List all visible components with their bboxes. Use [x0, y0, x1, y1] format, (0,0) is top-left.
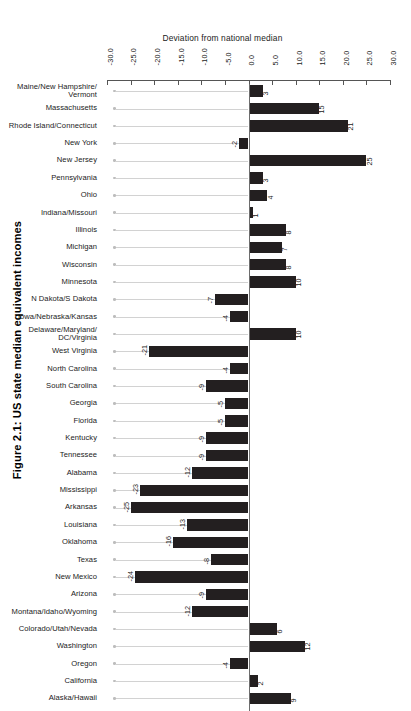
- bar-value-label: -12: [182, 467, 191, 477]
- bar[interactable]: [206, 450, 248, 461]
- bar[interactable]: [249, 641, 306, 652]
- category-label: Georgia: [0, 399, 97, 407]
- bar[interactable]: [131, 502, 249, 513]
- bar-row[interactable]: Mississippi-23: [34, 482, 411, 499]
- bar-row[interactable]: Ohio4: [34, 187, 411, 204]
- bar-value-label: -5: [215, 419, 224, 425]
- leader-line: [116, 612, 192, 613]
- bar[interactable]: [173, 537, 248, 548]
- category-label: Maine/New Hampshire/Vermont: [0, 83, 97, 99]
- leader-line: [116, 421, 225, 422]
- bar[interactable]: [230, 363, 249, 374]
- bar[interactable]: [249, 328, 296, 339]
- bar[interactable]: [206, 432, 248, 443]
- bar[interactable]: [206, 589, 248, 600]
- bar-value-label: -4: [220, 662, 229, 668]
- bar-row[interactable]: Maine/New Hampshire/Vermont3: [34, 83, 411, 100]
- category-label: Tennessee: [0, 451, 97, 459]
- bar-row[interactable]: West Virginia-21: [34, 343, 411, 360]
- bar-row[interactable]: Louisiana-13: [34, 516, 411, 533]
- bar-row[interactable]: Colorado/Utah/Nevada6: [34, 620, 411, 637]
- bar-row[interactable]: Rhode Island/Connecticut21: [34, 117, 411, 134]
- bar-row[interactable]: Arizona-9: [34, 586, 411, 603]
- bar-value-label: -9: [197, 436, 206, 442]
- bar-row[interactable]: Kentucky-9: [34, 430, 411, 447]
- bar-row[interactable]: New Mexico-24: [34, 568, 411, 585]
- bar-row[interactable]: Tennessee-9: [34, 447, 411, 464]
- category-label: Iowa/Nebraska/Kansas: [0, 313, 97, 321]
- bar-row[interactable]: Iowa/Nebraska/Kansas-4: [34, 308, 411, 325]
- bar-row[interactable]: Michigan7: [34, 239, 411, 256]
- bar[interactable]: [192, 606, 249, 617]
- bar-value-label: -25: [121, 502, 130, 512]
- bar[interactable]: [249, 276, 296, 287]
- category-label: Pennsylvania: [0, 174, 97, 182]
- leader-line: [116, 438, 206, 439]
- bar-value-label: 3: [260, 92, 269, 96]
- bar[interactable]: [187, 519, 248, 530]
- bar-row[interactable]: Arkansas-25: [34, 499, 411, 516]
- bar-row[interactable]: Indiana/Missouri1: [34, 204, 411, 221]
- bar[interactable]: [249, 693, 291, 704]
- bar-row[interactable]: Minnesota10: [34, 273, 411, 290]
- category-label: Alabama: [0, 469, 97, 477]
- bar-row[interactable]: New Jersey25: [34, 152, 411, 169]
- bar[interactable]: [249, 623, 277, 634]
- bar-row[interactable]: Montana/Idaho/Wyoming-12: [34, 603, 411, 620]
- category-label: New Mexico: [0, 573, 97, 581]
- leader-line: [116, 664, 229, 665]
- leader-line: [116, 299, 215, 300]
- bar-row[interactable]: Florida-5: [34, 412, 411, 429]
- bar[interactable]: [239, 138, 248, 149]
- bar[interactable]: [225, 415, 249, 426]
- bar[interactable]: [249, 120, 348, 131]
- bar-value-label: -4: [220, 367, 229, 373]
- bar-row[interactable]: South Carolina-9: [34, 377, 411, 394]
- bar-row[interactable]: Alabama-12: [34, 464, 411, 481]
- bar[interactable]: [249, 259, 287, 270]
- category-label: Michigan: [0, 243, 97, 251]
- leader-line: [116, 161, 248, 162]
- bar-value-label: 6: [275, 630, 284, 634]
- bar[interactable]: [149, 346, 248, 357]
- leader-line: [116, 230, 248, 231]
- category-label: Arkansas: [0, 503, 97, 511]
- bar-row[interactable]: Massachusetts15: [34, 100, 411, 117]
- bar-row[interactable]: N Dakota/S Dakota-7: [34, 291, 411, 308]
- bar-row[interactable]: Pennsylvania3: [34, 169, 411, 186]
- bar[interactable]: [249, 155, 367, 166]
- bar[interactable]: [192, 467, 249, 478]
- bar[interactable]: [206, 380, 248, 391]
- bar[interactable]: [225, 398, 249, 409]
- bar-value-label: -5: [215, 402, 224, 408]
- bar-value-label: -9: [197, 384, 206, 390]
- bar[interactable]: [249, 103, 320, 114]
- bar-row[interactable]: Wisconsin8: [34, 256, 411, 273]
- bar-row[interactable]: Oregon-4: [34, 655, 411, 672]
- leader-line: [116, 456, 206, 457]
- bar[interactable]: [249, 242, 282, 253]
- bar[interactable]: [215, 294, 248, 305]
- bar[interactable]: [211, 554, 249, 565]
- category-label: Louisiana: [0, 521, 97, 529]
- category-label: Oklahoma: [0, 538, 97, 546]
- bar-row[interactable]: California2: [34, 672, 411, 689]
- bar-row[interactable]: North Carolina-4: [34, 360, 411, 377]
- bar-row[interactable]: Alaska/Hawaii9: [34, 690, 411, 707]
- bar[interactable]: [230, 311, 249, 322]
- bar-row[interactable]: Georgia-5: [34, 395, 411, 412]
- bar-row[interactable]: New York-2: [34, 135, 411, 152]
- bar-row[interactable]: Texas-8: [34, 551, 411, 568]
- bar-row[interactable]: Oklahoma-16: [34, 534, 411, 551]
- bar[interactable]: [140, 485, 248, 496]
- bar[interactable]: [135, 571, 248, 582]
- bar[interactable]: [230, 658, 249, 669]
- leader-line: [116, 560, 211, 561]
- bar-value-label: 15: [317, 105, 326, 113]
- bar-value-label: -12: [182, 606, 191, 616]
- bar-row[interactable]: Illinois8: [34, 221, 411, 238]
- bar-row[interactable]: Washington12: [34, 638, 411, 655]
- category-label: Alaska/Hawaii: [0, 694, 97, 702]
- bar-row[interactable]: Delaware/Maryland/DC/Virginia10: [34, 325, 411, 342]
- bar[interactable]: [249, 224, 287, 235]
